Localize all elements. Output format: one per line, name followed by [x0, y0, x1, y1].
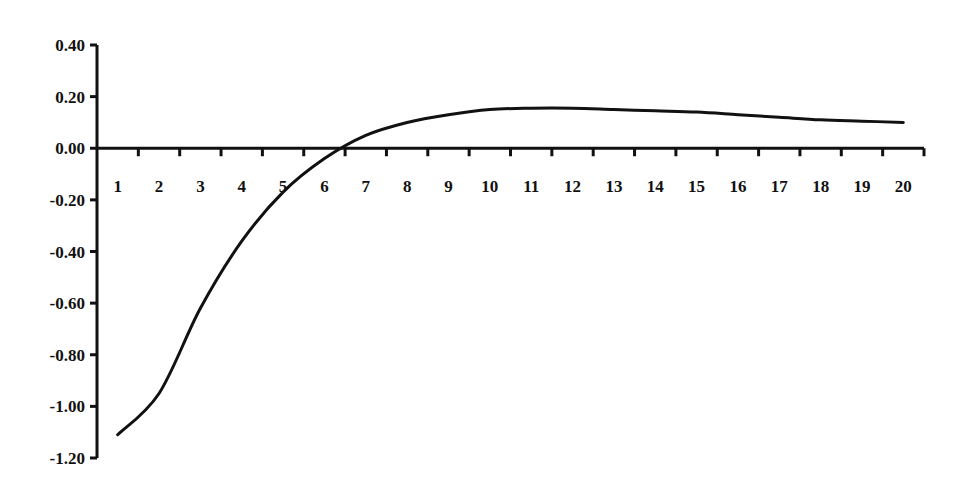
- x-tick-label: 20: [895, 177, 912, 196]
- y-tick-label: -0.60: [50, 294, 85, 313]
- x-tick-label: 17: [771, 177, 789, 196]
- x-tick-label: 9: [444, 177, 453, 196]
- x-tick-label: 13: [605, 177, 622, 196]
- x-tick-label: 14: [647, 177, 665, 196]
- x-tick-label: 4: [237, 177, 246, 196]
- x-tick-label: 19: [853, 177, 870, 196]
- y-tick-label: -0.40: [50, 243, 85, 262]
- y-tick-label: -0.20: [50, 191, 85, 210]
- y-axis: 0.400.200.00-0.20-0.40-0.60-0.80-1.00-1.…: [50, 36, 97, 468]
- y-tick-label: -1.00: [50, 397, 85, 416]
- line-chart: 0.400.200.00-0.20-0.40-0.60-0.80-1.00-1.…: [0, 0, 954, 492]
- x-tick-label: 12: [564, 177, 581, 196]
- x-tick-label: 18: [812, 177, 829, 196]
- x-axis: 1234567891011121314151617181920: [97, 148, 924, 196]
- y-tick-label: 0.20: [55, 88, 85, 107]
- y-tick-label: 0.40: [55, 36, 85, 55]
- x-tick-label: 6: [320, 177, 329, 196]
- x-tick-label: 15: [688, 177, 705, 196]
- data-line: [118, 108, 904, 435]
- y-tick-label: 0.00: [55, 139, 85, 158]
- x-tick-label: 16: [729, 177, 746, 196]
- x-tick-label: 2: [155, 177, 164, 196]
- x-tick-label: 11: [523, 177, 539, 196]
- x-tick-label: 7: [362, 177, 371, 196]
- x-tick-label: 3: [196, 177, 205, 196]
- x-tick-label: 10: [481, 177, 498, 196]
- x-tick-label: 8: [403, 177, 412, 196]
- y-tick-label: -1.20: [50, 449, 85, 468]
- y-tick-label: -0.80: [50, 346, 85, 365]
- x-tick-label: 1: [113, 177, 122, 196]
